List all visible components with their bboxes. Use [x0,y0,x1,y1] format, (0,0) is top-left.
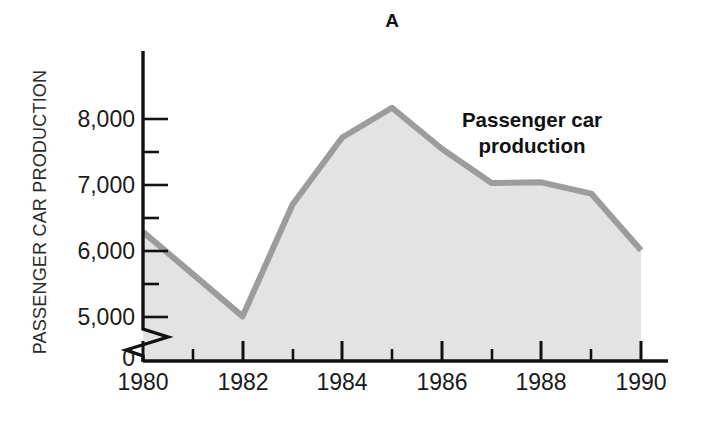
y-tick-label-7000: 7,000 [77,172,135,198]
series-annotation-line2: production [478,134,585,157]
panel-label: A [385,10,399,31]
y-tick-label-6000: 6,000 [77,238,135,264]
x-tick-label-1990: 1990 [615,369,666,395]
chart-figure: 8,000 7,000 6,000 5,000 0 1980 1982 1984… [0,0,701,426]
y-tick-label-zero: 0 [122,345,135,371]
x-tick-label-1986: 1986 [416,369,467,395]
x-tick-label-1980: 1980 [117,369,168,395]
x-tick-label-1988: 1988 [515,369,566,395]
x-tick-label-1982: 1982 [217,369,268,395]
x-tick-label-1984: 1984 [316,369,367,395]
y-tick-label-8000: 8,000 [77,106,135,132]
y-axis-title: PASSENGER CAR PRODUCTION [30,70,50,355]
series-annotation-line1: Passenger car [462,108,602,131]
chart-canvas: 8,000 7,000 6,000 5,000 0 1980 1982 1984… [0,0,701,426]
y-tick-label-5000: 5,000 [77,304,135,330]
